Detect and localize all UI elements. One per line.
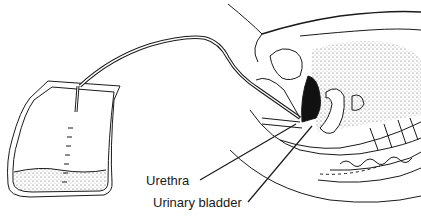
pelvic-cross-section: [200, 4, 421, 202]
drainage-bag: [8, 81, 121, 197]
catheter-illustration: [0, 0, 421, 217]
urethra-label: Urethra: [146, 174, 189, 187]
urinary-bladder-label: Urinary bladder: [153, 196, 242, 209]
